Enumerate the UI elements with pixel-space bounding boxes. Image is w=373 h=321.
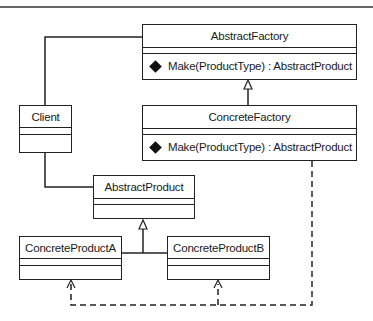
class-name: AbstractFactory — [143, 25, 356, 48]
generalization-arrow-icon — [244, 80, 252, 89]
operations-compartment: Make(ProductType) : AbstractProduct — [143, 135, 356, 159]
class-concrete-product-b[interactable]: ConcreteProductB — [167, 236, 270, 280]
class-name: AbstractProduct — [94, 176, 194, 199]
class-concrete-factory[interactable]: ConcreteFactory Make(ProductType) : Abst… — [142, 105, 357, 161]
attributes-compartment — [94, 199, 194, 205]
class-name: Client — [20, 106, 71, 128]
class-abstract-product[interactable]: AbstractProduct — [93, 175, 195, 219]
attributes-compartment — [168, 259, 269, 266]
class-name: ConcreteProductA — [20, 237, 121, 259]
generalization-arrow-icon — [139, 220, 147, 229]
attributes-compartment — [20, 259, 121, 266]
class-abstract-factory[interactable]: AbstractFactory Make(ProductType) : Abst… — [142, 24, 357, 80]
operations-compartment: Make(ProductType) : AbstractProduct — [143, 54, 356, 78]
attributes-compartment — [20, 128, 71, 135]
operation-diamond-icon — [149, 141, 162, 154]
operation-label: Make(ProductType) : AbstractProduct — [168, 141, 352, 153]
operation-diamond-icon — [149, 60, 162, 73]
class-concrete-product-a[interactable]: ConcreteProductA — [19, 236, 122, 280]
association-client-abstractfactory — [45, 37, 142, 105]
class-client[interactable]: Client — [19, 105, 72, 153]
operation-label: Make(ProductType) : AbstractProduct — [168, 60, 352, 72]
class-name: ConcreteFactory — [143, 106, 356, 129]
class-name: ConcreteProductB — [168, 237, 269, 259]
association-client-abstractproduct — [45, 152, 93, 187]
